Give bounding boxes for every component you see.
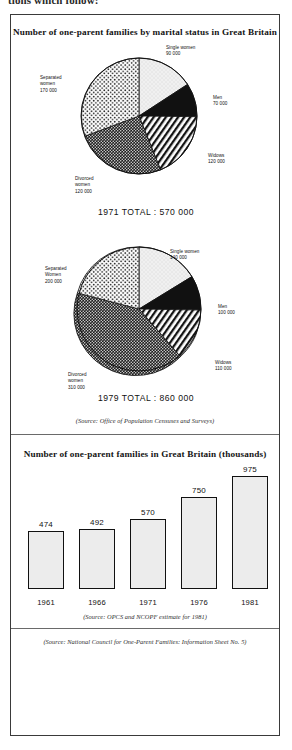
- figure-frame: Number of one-parent families by marital…: [10, 14, 280, 736]
- bar-year-1976: 1976: [181, 598, 217, 607]
- pie-1971-label-single-women: Single women 90 000: [166, 45, 195, 58]
- pie-1971-label-men: Men 70 000: [213, 95, 227, 108]
- pie-chart-1971: Single women 90 000 Men 70 000 Widows 12…: [11, 43, 281, 217]
- pie-1979-graphic: [15, 231, 277, 391]
- bar-year-1971: 1971: [130, 598, 166, 607]
- bar-column-1981: 975: [232, 465, 268, 590]
- pie-1971-total: 1971 TOTAL : 570 000: [11, 207, 281, 217]
- bar-chart-source: (Source: OPCS and NCOPF estimate for 198…: [11, 613, 279, 620]
- bar-rect-1966: [79, 529, 115, 589]
- bar-chart-title: Number of one-parent families in Great B…: [11, 449, 279, 459]
- pie-1979-label-divorced-women: Divorced women 310 000: [68, 372, 87, 391]
- bar-column-1966: 492: [79, 518, 115, 590]
- figure-footer-source: (Source: National Council for One-Parent…: [11, 638, 279, 645]
- pie-1979-label-men: Men 100 000: [218, 304, 235, 317]
- marital-status-source: (Source: Office of Population Censuses a…: [11, 417, 279, 424]
- bar-value-1961: 474: [28, 520, 64, 529]
- pie-chart-1979: Single women 140 000 Men 100 000 Widows …: [11, 231, 281, 403]
- bar-rect-1976: [181, 497, 217, 589]
- section-divider-2: [11, 628, 279, 629]
- pie-1979-label-separated-women: Separated Women 200 000: [45, 266, 67, 285]
- bar-rect-1971: [130, 519, 166, 589]
- bar-rect-1961: [28, 531, 64, 589]
- bar-column-1961: 474: [28, 520, 64, 590]
- pie-1979-label-single-women: Single women 140 000: [170, 249, 199, 262]
- bar-value-1966: 492: [79, 518, 115, 527]
- pie-1971-label-separated-women: Separated women 170 000: [40, 75, 62, 94]
- bar-chart-graphic: 474 1961 492 1966 570 1971 750 1976 975 …: [22, 469, 268, 607]
- pie-1971-graphic: [15, 43, 277, 193]
- pie-1971-label-divorced-women: Divorced women 120 000: [75, 176, 94, 195]
- section-divider-1: [11, 434, 279, 435]
- bar-value-1981: 975: [232, 465, 268, 474]
- page-running-text: tions which follow:: [8, 0, 128, 6]
- pie-1979-total: 1979 TOTAL : 860 000: [11, 393, 281, 403]
- bar-year-1966: 1966: [79, 598, 115, 607]
- marital-status-chart-title: Number of one-parent families by marital…: [11, 27, 279, 37]
- pie-1971-label-widows: Widows 120 000: [208, 153, 225, 166]
- bar-value-1971: 570: [130, 508, 166, 517]
- bar-column-1971: 570: [130, 508, 166, 590]
- bar-year-1961: 1961: [28, 598, 64, 607]
- pie-1979-label-widows: Widows 110 000: [215, 360, 232, 373]
- bar-year-1981: 1981: [232, 598, 268, 607]
- bar-rect-1981: [232, 476, 268, 589]
- bar-value-1976: 750: [181, 486, 217, 495]
- bar-column-1976: 750: [181, 486, 217, 590]
